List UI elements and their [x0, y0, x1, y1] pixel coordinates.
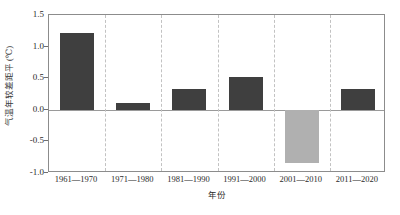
category-divider: [105, 15, 106, 171]
y-axis-tick-label: 1.0: [18, 41, 44, 50]
category-divider: [330, 15, 331, 171]
bar-chart: 气温年较差距平 (℃) 1.51.00.50.0-0.5-1.0 1961—19…: [0, 0, 400, 215]
x-axis-tick-label: 1991—2000: [217, 174, 273, 184]
y-axis-tick-label: -1.0: [18, 168, 44, 177]
y-axis-tick-labels: 1.51.00.50.0-0.5-1.0: [14, 0, 44, 215]
y-axis-title-text: 气温年较差距平 (℃): [2, 46, 14, 126]
bar: [60, 33, 94, 109]
x-axis-title: 年份: [48, 188, 385, 200]
y-axis-tick-label: 0.0: [18, 104, 44, 113]
bar: [285, 110, 319, 163]
category-divider: [218, 15, 219, 171]
y-axis-tick-mark: [44, 109, 48, 110]
y-axis-tick-label: -0.5: [18, 136, 44, 145]
plot-area: [48, 14, 385, 172]
bar: [341, 89, 375, 110]
category-divider: [274, 15, 275, 171]
bar: [116, 103, 150, 110]
y-axis-tick-mark: [44, 46, 48, 47]
x-axis-tick-label: 1961—1970: [48, 174, 104, 184]
category-divider: [161, 15, 162, 171]
x-axis-tick-label: 1971—1980: [104, 174, 160, 184]
x-axis-tick-label: 1981—1990: [160, 174, 216, 184]
x-axis-tick-label: 2011—2020: [329, 174, 385, 184]
y-axis-tick-mark: [44, 172, 48, 173]
bar: [229, 77, 263, 110]
zero-line: [49, 110, 384, 111]
x-axis-tick-labels: 1961—19701971—19801981—19901991—20002001…: [48, 174, 385, 188]
y-axis-tick-label: 0.5: [18, 73, 44, 82]
x-axis-tick-label: 2001—2010: [273, 174, 329, 184]
y-axis-tick-mark: [44, 140, 48, 141]
bar: [172, 89, 206, 110]
y-axis-tick-mark: [44, 77, 48, 78]
y-axis-tick-label: 1.5: [18, 10, 44, 19]
